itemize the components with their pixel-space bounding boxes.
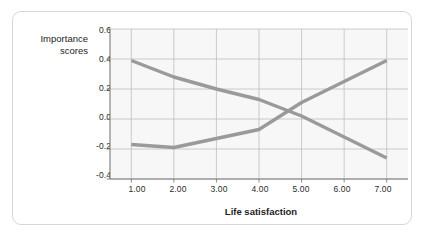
line-chart: Importance scores 0.6 0.4 0.2 0.0 -0.2 -…	[0, 0, 426, 237]
plot-area	[0, 0, 426, 237]
